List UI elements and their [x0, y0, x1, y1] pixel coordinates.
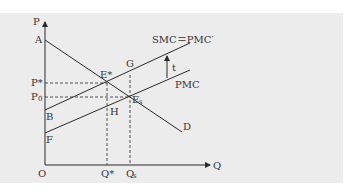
- e-s-subscript: s: [139, 98, 143, 106]
- demand-start-label: A: [34, 34, 43, 45]
- y-axis-label: P: [33, 16, 40, 27]
- pmc-start-label: F: [46, 134, 53, 145]
- g-label: G: [126, 58, 134, 69]
- pmc-curve: [45, 70, 190, 133]
- origin-label: O: [38, 168, 46, 179]
- smc-curve: [45, 43, 190, 110]
- x-axis-label: Q: [213, 160, 221, 171]
- demand-label: D: [183, 121, 191, 132]
- p-star-label: P*: [31, 77, 43, 88]
- q-s-subscript: s: [133, 172, 137, 180]
- h-label: H: [110, 106, 119, 117]
- pmc-label: PMC: [175, 79, 200, 90]
- smc-start-label: B: [46, 111, 53, 122]
- p-zero-subscript: 0: [38, 95, 42, 103]
- smc-label: SMC＝PMC′: [152, 34, 214, 45]
- tax-label: t: [172, 62, 176, 73]
- demand-curve: [45, 40, 182, 132]
- e-star-label: E*: [100, 69, 112, 80]
- q-star-label: Q*: [101, 168, 114, 179]
- p-zero-label: P: [31, 91, 38, 102]
- economics-diagram: P Q O A P* P 0 B F Q* Q s E* E s G H SMC…: [0, 0, 353, 192]
